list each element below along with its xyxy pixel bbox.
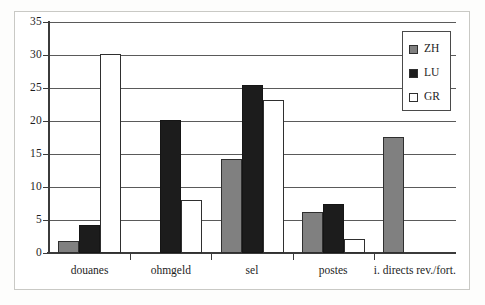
y-axis-tick-label: 15 xyxy=(14,148,42,160)
legend-item-zh[interactable]: ZH xyxy=(403,37,450,61)
x-axis-group-tick xyxy=(130,254,131,260)
legend-swatch-icon-lu xyxy=(409,69,418,78)
bars-group xyxy=(49,22,455,253)
y-axis-tick-label: 10 xyxy=(14,181,42,193)
chart-figure: 05101520253035 douanesohmgeldselpostesi.… xyxy=(0,0,485,305)
legend-label: LU xyxy=(424,67,439,79)
legend-item-lu[interactable]: LU xyxy=(403,61,450,85)
bar-sel-lu xyxy=(242,85,263,253)
x-axis-group-tick xyxy=(211,254,212,260)
x-axis-label-ohmgeld: ohmgeld xyxy=(130,264,211,277)
bar-postes-lu xyxy=(323,204,344,253)
legend-item-gr[interactable]: GR xyxy=(403,85,450,109)
legend-label: ZH xyxy=(424,43,439,55)
chart-legend: ZHLUGR xyxy=(402,31,451,111)
y-axis-tick-label: 30 xyxy=(14,49,42,61)
x-axis-label-douanes: douanes xyxy=(49,264,130,277)
y-axis-tick-label: 0 xyxy=(14,247,42,259)
bar-douanes-lu xyxy=(79,225,100,253)
y-axis-tick-label: 20 xyxy=(14,115,42,127)
bar-postes-zh xyxy=(302,212,323,253)
bar-sel-zh xyxy=(221,159,242,253)
y-axis-tick-label: 35 xyxy=(14,16,42,28)
x-axis-group-tick xyxy=(293,254,294,260)
bar-idirectsrevfort-zh xyxy=(383,137,404,253)
bar-douanes-gr xyxy=(100,54,121,253)
y-axis-tick-label: 25 xyxy=(14,82,42,94)
legend-label: GR xyxy=(424,91,440,103)
x-axis-label-postes: postes xyxy=(293,264,374,277)
x-axis-label-sel: sel xyxy=(211,264,292,277)
legend-swatch-icon-zh xyxy=(409,45,418,54)
bar-ohmgeld-lu xyxy=(160,120,181,253)
bar-ohmgeld-gr xyxy=(181,200,202,253)
y-axis-tick-label: 5 xyxy=(14,214,42,226)
bar-douanes-zh xyxy=(58,241,79,253)
x-axis-group-tick xyxy=(374,254,375,260)
x-axis-label-idirectsrevfort: i. directs rev./fort. xyxy=(374,264,455,277)
bar-sel-gr xyxy=(263,100,284,253)
legend-swatch-icon-gr xyxy=(409,93,418,102)
bar-postes-gr xyxy=(344,239,365,253)
